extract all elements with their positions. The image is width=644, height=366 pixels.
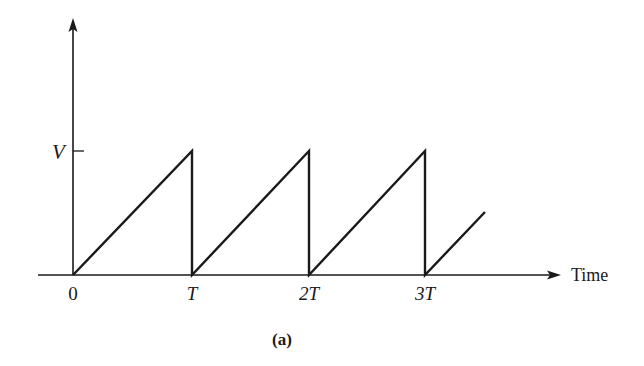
x-axis-label: Time: [571, 265, 608, 285]
y-axis: V: [52, 18, 84, 275]
sawtooth-diagram: V Time 0 T 2T 3T (a): [0, 0, 644, 366]
x-tick-labels: 0 T 2T 3T: [68, 283, 436, 304]
x-tick-3T: 3T: [414, 283, 437, 304]
x-tick-0: 0: [68, 283, 78, 304]
v-tick-label: V: [52, 140, 67, 164]
figure-caption: (a): [272, 330, 292, 349]
x-tick-T: T: [187, 283, 199, 304]
x-axis: Time: [38, 265, 608, 285]
sawtooth-waveform: [73, 151, 485, 275]
x-tick-2T: 2T: [299, 283, 321, 304]
